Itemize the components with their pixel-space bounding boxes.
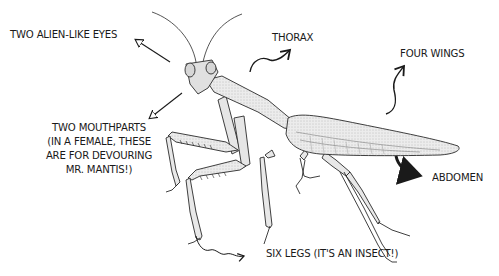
mouthparts-line-2: (IN A FEMALE, THESE [30,135,168,149]
arrow-legs [196,236,244,256]
label-mouthparts: TWO MOUTHPARTS (IN A FEMALE, THESE ARE F… [30,121,168,177]
label-thorax: THORAX [272,31,313,45]
middle-legs [260,150,320,244]
raptorial-legs [166,96,250,244]
label-legs: SIX LEGS (IT'S AN INSECT!) [266,247,398,261]
arrow-wings [386,66,404,114]
mantis-diagram: TWO ALIEN-LIKE EYES THORAX FOUR WINGS TW… [0,0,499,276]
label-eyes: TWO ALIEN-LIKE EYES [10,28,117,42]
arrow-eyes [136,40,170,62]
label-wings: FOUR WINGS [400,47,464,61]
label-abdomen: ABDOMEN [432,171,483,185]
arrow-abdomen [396,156,414,174]
arrow-mouthparts [150,93,182,118]
antennae [152,12,242,62]
mouthparts-line-3: ARE FOR DEVOURING [30,149,168,163]
mouthparts-line-1: TWO MOUTHPARTS [30,121,168,135]
mouthparts-line-4: MR. MANTIS!) [30,163,168,177]
hind-leg [322,152,410,262]
arrow-thorax [250,50,290,72]
